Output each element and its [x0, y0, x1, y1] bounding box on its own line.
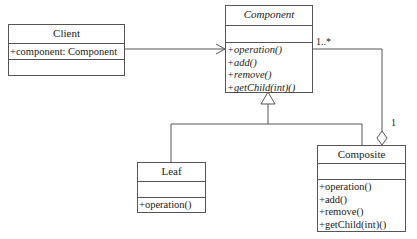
operation: +getChild(int)()	[318, 219, 405, 232]
multiplicity-one-label: 1	[391, 117, 396, 129]
class-name: Component	[226, 6, 312, 25]
class-leaf[interactable]: Leaf +operation()	[137, 162, 206, 213]
aggregation-line	[312, 49, 382, 131]
class-client[interactable]: Client +component: Component	[8, 24, 125, 76]
class-composite[interactable]: Composite +operation() +add() +remove() …	[317, 145, 406, 232]
operation: +add()	[318, 194, 405, 207]
operation: +getChild(int)()	[226, 82, 312, 95]
operation: +remove()	[226, 69, 312, 82]
aggregation-diamond-icon	[377, 131, 387, 145]
operation: +operation()	[138, 198, 205, 212]
operations-section: +operation()	[138, 197, 205, 212]
attribute: +component: Component	[9, 44, 124, 59]
operation: +remove()	[318, 206, 405, 219]
class-name: Composite	[318, 146, 405, 163]
operation: +operation()	[318, 181, 405, 194]
attributes-section	[318, 163, 405, 179]
operation: +add()	[226, 57, 312, 70]
operation: +operation()	[226, 44, 312, 57]
operations-section: +operation() +add() +remove() +getChild(…	[226, 42, 312, 94]
operations-section	[9, 59, 124, 75]
attributes-section: +component: Component	[9, 43, 124, 59]
operations-section: +operation() +add() +remove() +getChild(…	[318, 179, 405, 231]
class-name: Leaf	[138, 163, 205, 181]
attributes-section	[226, 25, 312, 42]
multiplicity-many-label: 1..*	[316, 36, 331, 48]
class-component[interactable]: Component +operation() +add() +remove() …	[225, 5, 313, 93]
class-name: Client	[9, 25, 124, 43]
attributes-section	[138, 181, 205, 197]
